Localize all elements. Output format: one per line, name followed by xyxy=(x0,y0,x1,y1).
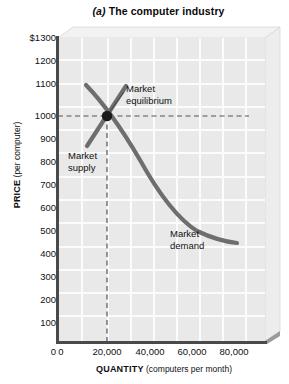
x-axis-title: QUANTITY (computers per month) xyxy=(58,364,270,374)
y-tick-label: 200 xyxy=(4,295,56,305)
annotation-line-2: equilibrium xyxy=(126,95,172,107)
y-tick-label: $1300 xyxy=(4,33,56,43)
y-tick-label: 400 xyxy=(4,249,56,259)
y-axis-title-rest: (per computer) xyxy=(12,122,22,180)
gridline-v xyxy=(176,38,178,341)
x-tick-label: 20,000 xyxy=(85,347,129,357)
gridline-h xyxy=(58,246,265,248)
gridline-v xyxy=(81,38,83,341)
gridline-v xyxy=(107,38,109,341)
gridline-h xyxy=(58,129,265,131)
box-right-face xyxy=(265,27,280,341)
annotation-line-1: Market xyxy=(170,228,204,240)
y-axis-line xyxy=(56,36,59,343)
gridline-h xyxy=(58,315,265,317)
figure-panel: (a) The computer industry xyxy=(0,0,289,384)
annotation-line-1: Market xyxy=(68,150,97,162)
gridline-h xyxy=(58,176,265,178)
gridline-h xyxy=(58,269,265,271)
annotation-line-2: supply xyxy=(68,162,97,174)
gridline-h xyxy=(58,106,265,108)
gridline-h xyxy=(58,292,265,294)
x-axis-line xyxy=(56,341,267,344)
y-tick-label: 1100 xyxy=(4,79,56,89)
annotation-market-supply: Market supply xyxy=(68,150,97,173)
gridline-h xyxy=(58,222,265,224)
x-tick-label: 40,000 xyxy=(128,347,172,357)
x-tick-label: 0 xyxy=(39,347,83,357)
annotation-line-2: demand xyxy=(170,240,204,252)
x-tick-label: 60,000 xyxy=(170,347,214,357)
gridline-v xyxy=(199,38,201,341)
y-axis-title-bold: PRICE xyxy=(12,180,22,209)
annotation-line-1: Market xyxy=(126,83,172,95)
y-tick-label: 300 xyxy=(4,272,56,282)
annotation-market-demand: Market demand xyxy=(170,228,204,251)
x-tick-label: 80,000 xyxy=(212,347,256,357)
gridline-h xyxy=(58,59,265,61)
box-top-face xyxy=(58,27,280,38)
gridline-h xyxy=(58,199,265,201)
gridline-v xyxy=(222,38,224,341)
y-tick-label: 100 xyxy=(4,318,56,328)
annotation-market-equilibrium: Market equilibrium xyxy=(126,83,172,106)
x-axis-title-rest: (computers per month) xyxy=(144,364,232,374)
y-tick-label: 1200 xyxy=(4,56,56,66)
gridline-v xyxy=(245,38,247,341)
x-axis-title-bold: QUANTITY xyxy=(96,364,144,374)
y-axis-title: PRICE (per computer) xyxy=(12,90,22,240)
